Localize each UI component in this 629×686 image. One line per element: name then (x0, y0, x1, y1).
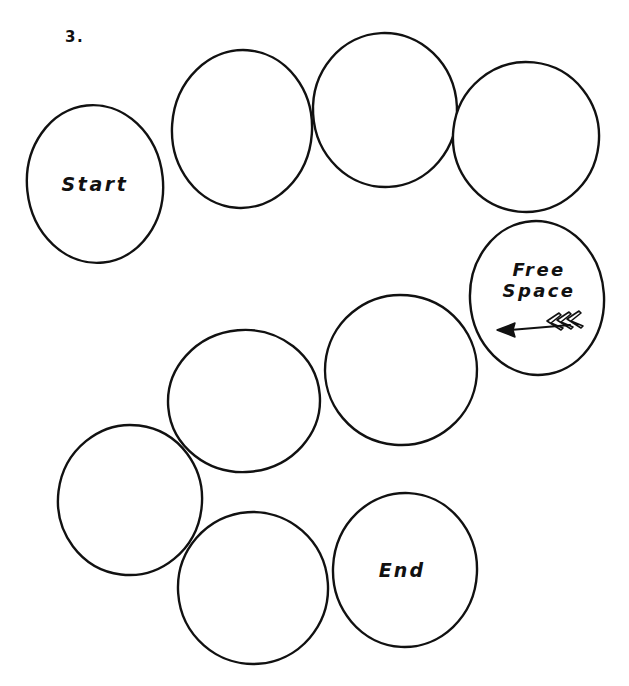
game-board-canvas (0, 0, 629, 686)
board-cell-3[interactable] (309, 29, 461, 190)
worksheet-page: 3. Start Free Space End (0, 0, 629, 686)
board-cell-free-space[interactable] (465, 217, 609, 380)
board-cell-6[interactable] (319, 289, 483, 452)
board-cell-2[interactable] (167, 45, 318, 212)
question-number: 3. (65, 30, 84, 45)
board-cell-9[interactable] (173, 507, 333, 669)
board-cell-end[interactable] (329, 489, 481, 650)
board-cell-start[interactable] (19, 98, 171, 269)
board-cell-4[interactable] (446, 55, 607, 219)
